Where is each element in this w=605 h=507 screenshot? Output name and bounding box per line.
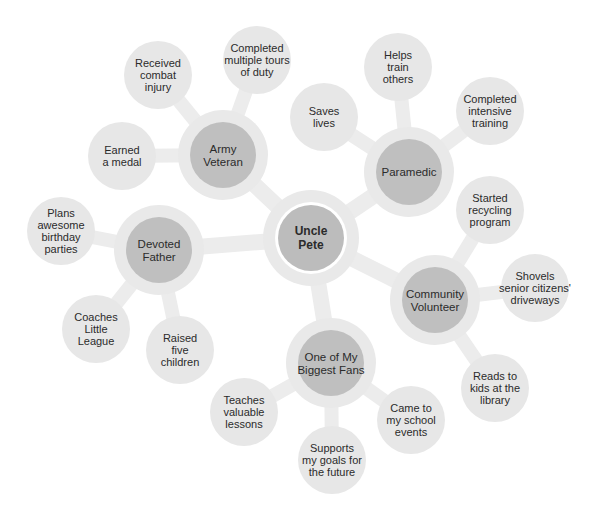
label-line: Father — [142, 251, 175, 263]
label-line: Came to — [390, 402, 432, 414]
mind-map: ReceivedcombatinjuryCompletedmultiple to… — [0, 0, 605, 507]
leaf-node-biggest-fans-1[interactable]: Supportsmy goals forthe future — [298, 426, 366, 494]
label-line: Paramedic — [382, 166, 437, 178]
label-line: program — [470, 216, 511, 228]
leaf-node-army-veteran-0[interactable]: Receivedcombatinjury — [124, 41, 192, 109]
node-label: UnclePete — [295, 224, 328, 252]
node-label: Supportsmy goals forthe future — [302, 442, 362, 478]
label-line: Started — [472, 192, 507, 204]
label-line: driveways — [511, 294, 560, 306]
label-line: children — [161, 356, 200, 368]
label-line: Completed — [230, 42, 283, 54]
label-line: valuable — [224, 406, 265, 418]
leaf-node-army-veteran-1[interactable]: Completedmultiple toursof duty — [223, 26, 291, 94]
label-line: a medal — [102, 156, 141, 168]
label-line: parties — [44, 243, 78, 255]
node-label: DevotedFather — [138, 238, 181, 263]
node-label: Paramedic — [382, 166, 437, 178]
leaf-node-biggest-fans-2[interactable]: Came tomy schoolevents — [377, 386, 445, 454]
label-line: Community — [406, 288, 464, 300]
label-line: senior citizens' — [499, 282, 571, 294]
label-line: Devoted — [138, 238, 181, 250]
label-line: injury — [145, 81, 172, 93]
label-line: Pete — [298, 238, 324, 252]
category-node-devoted-father[interactable]: DevotedFather — [126, 217, 192, 283]
label-line: lives — [313, 117, 336, 129]
label-line: combat — [140, 69, 176, 81]
label-line: events — [395, 426, 428, 438]
label-line: kids at the — [470, 382, 520, 394]
label-line: recycling — [468, 204, 511, 216]
label-line: my goals for — [302, 454, 362, 466]
node-label: Startedrecyclingprogram — [468, 192, 511, 228]
label-line: Earned — [104, 144, 139, 156]
label-line: Little — [84, 323, 107, 335]
label-line: Teaches — [224, 394, 265, 406]
category-node-army-veteran[interactable]: ArmyVeteran — [190, 122, 256, 188]
node-label: Earneda medal — [102, 144, 141, 168]
leaf-node-paramedic-1[interactable]: Helpstrainothers — [364, 33, 432, 101]
label-line: Helps — [384, 49, 413, 61]
label-line: my school — [386, 414, 436, 426]
label-line: five — [171, 344, 188, 356]
label-line: Completed — [463, 93, 516, 105]
label-line: Received — [135, 57, 181, 69]
label-line: Army — [210, 143, 237, 155]
label-line: intensive — [468, 105, 511, 117]
label-line: training — [472, 117, 508, 129]
label-line: One of My — [304, 351, 357, 363]
label-line: Uncle — [295, 224, 328, 238]
label-line: library — [480, 394, 510, 406]
label-line: Shovels — [515, 270, 555, 282]
leaf-node-community-volunteer-0[interactable]: Startedrecyclingprogram — [456, 176, 524, 244]
leaf-node-devoted-father-2[interactable]: Raisedfivechildren — [146, 316, 214, 384]
node-label: Teachesvaluablelessons — [224, 394, 265, 430]
leaf-node-biggest-fans-0[interactable]: Teachesvaluablelessons — [210, 378, 278, 446]
leaf-node-paramedic-2[interactable]: Completedintensivetraining — [456, 77, 524, 145]
label-line: others — [383, 73, 414, 85]
label-line: awesome — [37, 219, 84, 231]
label-line: of duty — [240, 66, 274, 78]
leaf-node-devoted-father-1[interactable]: CoachesLittleLeague — [62, 295, 130, 363]
label-line: lessons — [225, 418, 263, 430]
label-line: Veteran — [203, 156, 243, 168]
label-line: Supports — [310, 442, 355, 454]
leaf-node-devoted-father-0[interactable]: Plansawesomebirthdayparties — [27, 197, 95, 265]
nodes: ReceivedcombatinjuryCompletedmultiple to… — [27, 26, 571, 494]
leaf-node-community-volunteer-2[interactable]: Reads tokids at thelibrary — [461, 354, 529, 422]
label-line: multiple tours — [224, 54, 290, 66]
category-node-paramedic[interactable]: Paramedic — [376, 139, 442, 205]
label-line: Raised — [163, 332, 197, 344]
label-line: Saves — [309, 105, 340, 117]
leaf-node-army-veteran-2[interactable]: Earneda medal — [88, 122, 156, 190]
label-line: Reads to — [473, 370, 517, 382]
label-line: League — [78, 335, 115, 347]
label-line: Biggest Fans — [297, 364, 364, 376]
label-line: the future — [309, 466, 355, 478]
label-line: Plans — [47, 207, 75, 219]
category-node-community-volunteer[interactable]: CommunityVolunteer — [402, 267, 468, 333]
label-line: Coaches — [74, 311, 118, 323]
center-node[interactable]: UnclePete — [275, 202, 347, 274]
node-label: CommunityVolunteer — [406, 288, 464, 313]
label-line: train — [387, 61, 408, 73]
leaf-node-paramedic-0[interactable]: Saveslives — [290, 83, 358, 151]
node-label: One of MyBiggest Fans — [297, 351, 364, 376]
label-line: Volunteer — [411, 301, 460, 313]
label-line: birthday — [41, 231, 81, 243]
leaf-node-community-volunteer-1[interactable]: Shovelssenior citizens'driveways — [499, 254, 571, 322]
